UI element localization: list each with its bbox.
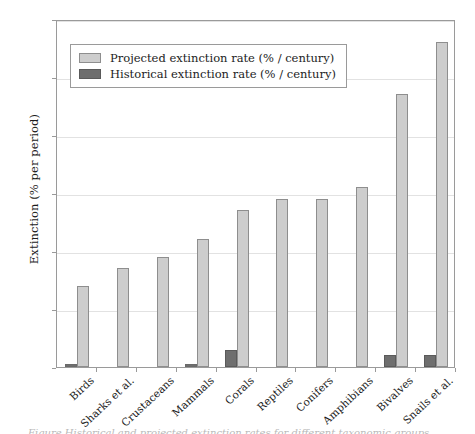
bar-projected <box>157 257 169 367</box>
x-tick-mark <box>96 368 97 372</box>
figure-caption: Figure Historical and projected extincti… <box>28 427 458 434</box>
x-axis-label: Birds <box>67 374 96 402</box>
bar-slot <box>376 21 416 367</box>
x-axis-label: Corals <box>222 374 256 407</box>
x-tick-mark <box>335 368 336 372</box>
bar-historical <box>65 364 77 367</box>
legend-label-projected: Projected extinction rate (% / century) <box>110 51 334 65</box>
x-tick-mark <box>136 368 137 372</box>
x-tick-mark <box>176 368 177 372</box>
legend-item-historical: Historical extinction rate (% / century) <box>79 66 336 82</box>
bar-historical <box>225 350 237 367</box>
bar-historical <box>424 355 436 367</box>
bar-historical <box>185 364 197 367</box>
x-tick-mark <box>375 368 376 372</box>
y-tick-mark <box>52 368 56 369</box>
x-tick-mark <box>415 368 416 372</box>
bar-projected <box>197 239 209 367</box>
bar-slot <box>416 21 456 367</box>
bar-projected <box>316 199 328 367</box>
bar-projected <box>237 210 249 367</box>
x-tick-mark <box>216 368 217 372</box>
x-axis-label: Reptiles <box>255 374 296 413</box>
legend-swatch-projected-icon <box>79 53 101 63</box>
legend-label-historical: Historical extinction rate (% / century) <box>110 67 336 81</box>
legend-swatch-historical-icon <box>79 69 101 79</box>
legend-item-projected: Projected extinction rate (% / century) <box>79 50 336 66</box>
bar-projected <box>276 199 288 367</box>
chart-legend: Projected extinction rate (% / century) … <box>70 44 347 88</box>
bar-projected <box>77 286 89 367</box>
figure-extinction-rates: Extinction (% per period) 0102030405060 … <box>0 0 475 434</box>
bar-projected <box>356 187 368 367</box>
bar-projected <box>396 94 408 367</box>
y-axis-title: Extinction (% per period) <box>27 59 41 319</box>
bar-projected <box>436 42 448 367</box>
x-tick-mark <box>455 368 456 372</box>
bar-historical <box>384 355 396 367</box>
x-tick-mark <box>256 368 257 372</box>
bar-projected <box>117 268 129 367</box>
x-axis-label: Mammals <box>169 374 216 419</box>
x-tick-mark <box>295 368 296 372</box>
